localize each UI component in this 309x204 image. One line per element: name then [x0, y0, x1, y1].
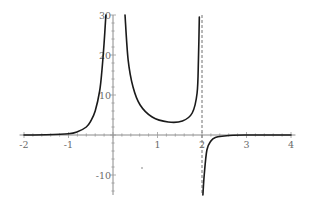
y-tick-label: 20: [99, 50, 111, 61]
function-plot: -2-11234-10102030: [0, 0, 309, 204]
curves: [24, 15, 291, 195]
x-tick-label: 4: [288, 139, 294, 150]
middle-branch-curve: [125, 15, 199, 122]
tick-labels: -2-11234-10102030: [19, 10, 294, 181]
x-tick-label: -1: [64, 139, 73, 150]
y-tick-label: -10: [96, 170, 111, 181]
x-tick-label: 3: [243, 139, 249, 150]
x-tick-label: 1: [154, 139, 160, 150]
y-tick-label: 10: [99, 90, 111, 101]
scan-artifact-dot: [141, 167, 143, 169]
x-tick-label: -2: [19, 139, 28, 150]
left-branch-curve: [24, 15, 106, 135]
axes: [20, 15, 296, 195]
tick-marks: [24, 15, 291, 191]
